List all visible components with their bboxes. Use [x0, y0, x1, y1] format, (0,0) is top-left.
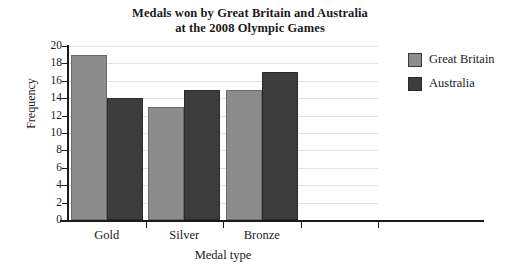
x-axis-label-bronze: Bronze	[244, 228, 280, 243]
y-axis-tick	[62, 168, 68, 169]
x-axis-line	[60, 220, 484, 222]
y-axis-tick	[62, 185, 68, 186]
y-axis-tick	[62, 46, 68, 47]
legend-label: Australia	[429, 76, 475, 91]
x-axis-title: Medal type	[68, 248, 378, 263]
y-axis-tick-label: 0	[16, 214, 62, 226]
y-axis-tick-label: 10	[16, 127, 62, 139]
legend-label: Great Britain	[429, 52, 495, 67]
legend-swatch-icon	[408, 77, 422, 91]
bar-gold-australia	[107, 98, 143, 220]
y-axis-tick	[62, 150, 68, 151]
x-axis-tick	[378, 222, 379, 228]
chart-legend: Great BritainAustralia	[408, 52, 495, 100]
legend-item-great-britain: Great Britain	[408, 52, 495, 67]
bar-bronze-australia	[262, 72, 298, 220]
y-axis-tick-label: 4	[16, 179, 62, 191]
y-axis-tick-label: 6	[16, 162, 62, 174]
x-axis-tick	[146, 222, 147, 228]
y-axis-tick	[62, 63, 68, 64]
y-axis-tick	[62, 220, 68, 221]
bar-silver-australia	[184, 90, 220, 221]
y-axis-tick	[62, 116, 68, 117]
bar-gold-great-britain	[71, 55, 107, 220]
y-axis-tick-label: 2	[16, 197, 62, 209]
chart-title-line-2: at the 2008 Olympic Games	[40, 21, 460, 36]
bar-bronze-great-britain	[226, 90, 262, 221]
x-axis-tick	[301, 222, 302, 228]
x-axis-tick	[223, 222, 224, 228]
legend-item-australia: Australia	[408, 76, 495, 91]
chart-title: Medals won by Great Britain and Australi…	[40, 6, 460, 36]
y-axis-tick-label: 12	[16, 110, 62, 122]
x-axis-label-gold: Gold	[94, 228, 119, 243]
bar-chart: Medals won by Great Britain and Australi…	[0, 0, 524, 276]
plot-area	[68, 46, 378, 220]
y-axis-labels: 02468101214161820	[8, 46, 62, 220]
y-axis-tick	[62, 203, 68, 204]
y-axis-tick-label: 14	[16, 92, 62, 104]
bar-silver-great-britain	[148, 107, 184, 220]
y-axis-tick	[62, 133, 68, 134]
gridline	[68, 46, 378, 47]
y-axis-tick	[62, 81, 68, 82]
gridline	[68, 81, 378, 82]
chart-title-line-1: Medals won by Great Britain and Australi…	[40, 6, 460, 21]
legend-swatch-icon	[408, 53, 422, 67]
gridline	[68, 63, 378, 64]
x-axis-label-silver: Silver	[169, 228, 199, 243]
y-axis-tick-label: 8	[16, 144, 62, 156]
y-axis-tick-label: 18	[16, 57, 62, 69]
y-axis-tick-label: 16	[16, 75, 62, 87]
y-axis-tick	[62, 98, 68, 99]
y-axis-tick-label: 20	[16, 40, 62, 52]
